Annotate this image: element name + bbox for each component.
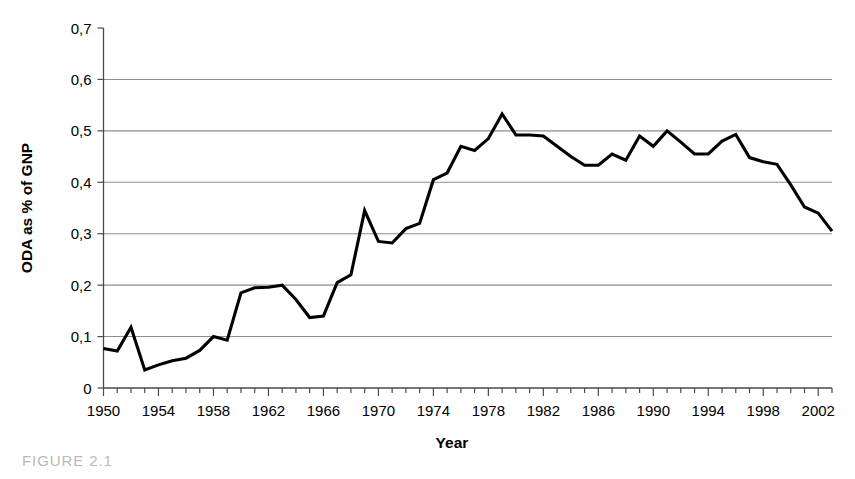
y-tick-labels-group: 00,10,20,30,40,50,60,7 — [71, 20, 92, 397]
x-tick-label: 1978 — [472, 402, 505, 419]
x-tick-label: 2002 — [802, 402, 835, 419]
y-tick-label: 0,1 — [71, 328, 92, 345]
x-axis-title: Year — [436, 434, 469, 451]
y-tick-label: 0,2 — [71, 277, 92, 294]
y-tick-label: 0,3 — [71, 225, 92, 242]
y-tick-label: 0,4 — [71, 174, 92, 191]
x-tick-label: 1954 — [142, 402, 175, 419]
x-tick-label: 1990 — [637, 402, 670, 419]
oda-gnp-line-chart: 00,10,20,30,40,50,60,7 19501954195819621… — [0, 0, 855, 479]
figure-caption: FIGURE 2.1 — [22, 452, 113, 469]
data-series-group — [104, 114, 833, 370]
y-tick-label: 0,5 — [71, 122, 92, 139]
x-tick-label: 1966 — [307, 402, 340, 419]
x-tick-label: 1958 — [197, 402, 230, 419]
x-tick-label: 1974 — [417, 402, 450, 419]
gridlines-group — [104, 79, 833, 336]
x-tick-label: 1982 — [527, 402, 560, 419]
y-axis-title: ODA as % of GNP — [18, 143, 35, 273]
x-tick-label: 1970 — [362, 402, 395, 419]
x-tick-label: 1962 — [252, 402, 285, 419]
x-tick-label: 1986 — [582, 402, 615, 419]
data-line-oda-gnp — [104, 114, 833, 370]
y-tick-label: 0,6 — [71, 71, 92, 88]
figure-container: 00,10,20,30,40,50,60,7 19501954195819621… — [0, 0, 855, 479]
y-axis-group — [98, 28, 104, 388]
x-axis-group — [104, 388, 833, 396]
x-tick-label: 1950 — [87, 402, 120, 419]
y-tick-label: 0 — [83, 380, 91, 397]
x-tick-label: 1994 — [692, 402, 725, 419]
y-tick-label: 0,7 — [71, 20, 92, 37]
x-tick-labels-group: 1950195419581962196619701974197819821986… — [87, 402, 835, 419]
x-tick-label: 1998 — [747, 402, 780, 419]
